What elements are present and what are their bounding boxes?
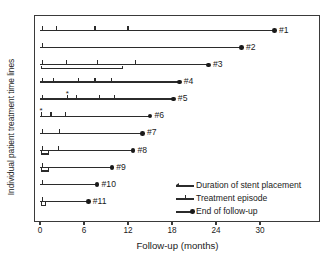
end-of-followup-dot (140, 131, 145, 136)
treatment-episode-tick (111, 78, 112, 83)
legend-marker-tick-line-icon (176, 192, 196, 205)
x-axis-tick (127, 221, 128, 225)
x-axis-tick-label: 12 (115, 226, 141, 236)
end-of-followup-dot (171, 97, 176, 102)
patient-label: #1 (279, 25, 289, 35)
patient-label: #2 (246, 42, 256, 52)
x-axis-tick (171, 221, 172, 225)
treatment-episode-tick (99, 95, 100, 100)
end-of-followup-dot (239, 45, 244, 50)
patient-label: #11 (93, 196, 107, 206)
patient-label: #10 (102, 179, 116, 189)
treatment-episode-tick (94, 78, 95, 83)
patient-followup-line (40, 150, 133, 151)
legend-label: Duration of stent placement (196, 179, 301, 192)
patient-label: #4 (184, 76, 194, 86)
x-axis-tick (259, 221, 260, 225)
treatment-episode-tick (65, 112, 66, 117)
treatment-episode-tick (58, 146, 59, 151)
x-axis-tick-label: 24 (203, 226, 229, 236)
legend-marker-arrow-line-icon (176, 179, 196, 192)
figure-individual-patient-timelines: Individual patient treatment time lines … (0, 0, 334, 261)
stent-placement-cap (48, 168, 49, 171)
x-axis-tick-label: 6 (71, 226, 97, 236)
treatment-episode-tick (42, 78, 43, 83)
patient-followup-line (40, 98, 173, 99)
end-of-followup-dot (86, 199, 91, 204)
x-axis-tick (39, 221, 40, 225)
patient-label: #3 (213, 59, 223, 69)
treatment-episode-tick (42, 43, 43, 48)
x-axis-label: Follow-up (months) (34, 240, 321, 252)
x-axis-tick-label: 30 (247, 226, 273, 236)
patient-followup-line (40, 30, 275, 31)
patient-label: #9 (116, 162, 126, 172)
stent-placement-cap (41, 202, 42, 205)
legend-row: Duration of stent placement (176, 179, 316, 192)
patient-label: #5 (178, 93, 188, 103)
treatment-episode-tick (135, 60, 136, 65)
treatment-episode-tick (78, 78, 79, 83)
chart-legend: Duration of stent placementTreatment epi… (176, 179, 316, 218)
treatment-episode-tick (59, 129, 60, 134)
treatment-episode-tick (50, 112, 51, 117)
stent-placement-cap (41, 66, 42, 69)
asterisk-annotation: * (39, 107, 42, 115)
treatment-episode-tick (76, 95, 77, 100)
end-of-followup-dot (272, 28, 277, 33)
treatment-episode-tick (97, 60, 98, 65)
stent-placement-cap (45, 202, 46, 205)
legend-label: Treatment episode (196, 192, 267, 205)
y-axis-label: Individual patient treatment time lines (4, 11, 18, 243)
patient-followup-line (40, 184, 97, 185)
x-axis-tick-label: 0 (27, 226, 53, 236)
stent-placement-cap (41, 151, 42, 154)
stent-placement-bar (41, 68, 122, 69)
patient-followup-line (40, 47, 242, 48)
treatment-episode-tick (66, 60, 67, 65)
end-of-followup-dot (206, 63, 211, 68)
treatment-episode-tick (53, 78, 54, 83)
patient-label: #7 (147, 127, 157, 137)
patient-followup-line (40, 167, 112, 168)
patient-label: #6 (154, 110, 164, 120)
treatment-episode-tick (114, 95, 115, 100)
legend-label: End of follow-up (196, 205, 258, 218)
treatment-episode-tick (56, 26, 57, 31)
legend-marker-dot-line-icon (176, 205, 196, 218)
treatment-episode-tick (42, 129, 43, 134)
asterisk-annotation: * (66, 90, 69, 98)
legend-row: End of follow-up (176, 205, 316, 218)
stent-placement-cap (41, 168, 42, 171)
patient-followup-line (40, 116, 150, 117)
patient-followup-line (40, 81, 179, 82)
patient-followup-line (40, 201, 88, 202)
treatment-episode-tick (42, 26, 43, 31)
x-axis-tick (83, 221, 84, 225)
treatment-episode-tick (94, 26, 95, 31)
patient-label: #8 (138, 145, 148, 155)
stent-placement-cap (122, 66, 123, 69)
patient-followup-line (40, 133, 143, 134)
end-of-followup-dot (110, 165, 115, 170)
legend-row: Treatment episode (176, 192, 316, 205)
end-of-followup-dot (131, 148, 136, 153)
end-of-followup-dot (177, 80, 182, 85)
x-axis-tick (215, 221, 216, 225)
treatment-episode-tick (42, 180, 43, 185)
treatment-episode-tick (42, 95, 43, 100)
treatment-episode-tick (127, 26, 128, 31)
stent-placement-cap (48, 151, 49, 154)
x-axis-tick-label: 18 (159, 226, 185, 236)
